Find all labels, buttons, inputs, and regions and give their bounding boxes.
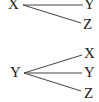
edge-y-z: [24, 73, 81, 91]
edge-y-x: [24, 55, 82, 73]
tree2-root-label: Y: [10, 65, 21, 80]
tree2-child-label: Y: [84, 65, 95, 80]
tree2-child-label: X: [84, 46, 95, 61]
edge-x-z: [23, 5, 81, 23]
tree1-root-label: X: [8, 0, 19, 12]
tree2-child-label: Z: [84, 86, 93, 101]
tree1-child-label: Z: [83, 17, 92, 32]
tree1-child-label: Y: [84, 0, 95, 12]
